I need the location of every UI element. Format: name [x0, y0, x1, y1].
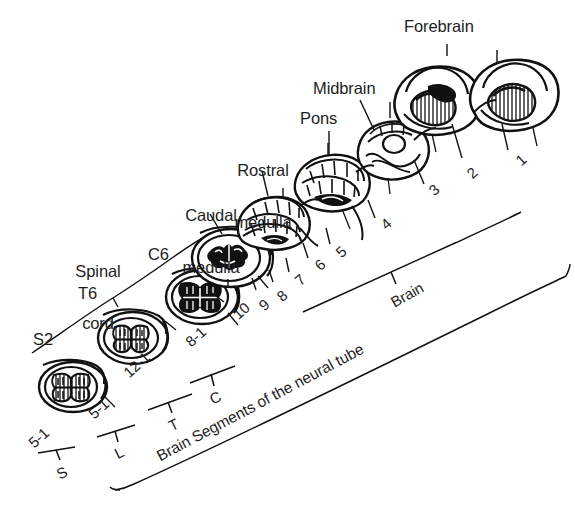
- label-caudal-medulla: Caudal medulla: [163, 172, 259, 312]
- label-spinal-cord-line1: Spinal: [55, 263, 141, 280]
- bracket-l: [97, 425, 135, 442]
- label-s2: S2: [33, 331, 53, 348]
- label-caudal-medulla-line2: medulla: [163, 259, 259, 276]
- label-caudal-medulla-line1: Caudal: [163, 207, 259, 224]
- label-midbrain: Midbrain: [313, 80, 375, 97]
- label-t6: T6: [78, 285, 97, 302]
- figure-canvas: Forebrain Midbrain Pons Rostral medulla …: [0, 0, 575, 518]
- label-forebrain: Forebrain: [404, 18, 474, 35]
- cross-section-forebrain-anterior: [470, 50, 558, 146]
- bracket-s: [38, 447, 75, 460]
- bracket-c: [190, 366, 235, 386]
- label-spinal-cord: Spinal cord: [55, 228, 141, 368]
- label-spinal-cord-line2: cord: [55, 315, 141, 332]
- bracket-t: [148, 394, 192, 413]
- label-pons: Pons: [300, 110, 337, 127]
- label-c6: C6: [148, 246, 169, 263]
